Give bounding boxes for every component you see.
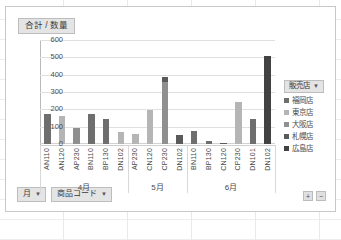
bar-column[interactable] — [132, 134, 139, 144]
category-axis-label: DN102 — [117, 148, 124, 171]
bar-column[interactable] — [147, 110, 154, 144]
gridline — [40, 92, 275, 93]
value-field-label: 合計 / 数量 — [25, 20, 68, 30]
bar-segment[interactable] — [264, 56, 271, 144]
y-axis-tick-label: 300 — [37, 88, 63, 96]
bar-column[interactable] — [162, 77, 169, 144]
category-axis-label: BN110 — [87, 148, 94, 170]
bar-column[interactable] — [88, 114, 95, 144]
bar-segment[interactable] — [250, 119, 257, 144]
legend-item[interactable]: 大阪店 — [284, 121, 336, 129]
bar-column[interactable] — [250, 119, 257, 144]
legend-field-button[interactable]: 販売店▼ — [284, 80, 324, 93]
bar-segment[interactable] — [147, 110, 154, 144]
bar-segment[interactable] — [132, 134, 139, 144]
value-field-button[interactable]: 合計 / 数量 — [18, 18, 75, 34]
category-axis-label: AP230 — [131, 148, 138, 170]
bar-column[interactable] — [103, 119, 110, 144]
zoom-out-button[interactable]: − — [316, 191, 326, 201]
chevron-down-icon: ▼ — [313, 83, 319, 89]
category-axis-label: AN120 — [58, 148, 65, 170]
category-axis-label: AP230 — [73, 148, 80, 170]
bar-column[interactable] — [118, 132, 125, 144]
legend-item[interactable]: 福岡店 — [284, 97, 336, 105]
category-axis-label: DN101 — [249, 148, 256, 171]
pivot-chart-frame[interactable]: 合計 / 数量 販売店▼ 福岡店東京店大阪店札幌店広島店 月▼商品コード▼ +−… — [5, 6, 336, 212]
zoom-in-button[interactable]: + — [303, 191, 313, 201]
y-axis-tick-label: 600 — [37, 36, 63, 44]
group-separator — [128, 145, 129, 193]
bar-segment[interactable] — [162, 82, 169, 144]
legend-item[interactable]: 東京店 — [284, 109, 336, 117]
bar-segment[interactable] — [73, 128, 80, 144]
category-axis-label: BP130 — [102, 148, 109, 170]
legend-swatch-icon — [284, 122, 289, 127]
category-axis-label: CP230 — [161, 148, 168, 170]
bar-column[interactable] — [220, 143, 227, 144]
category-axis-line — [40, 145, 275, 146]
legend-swatch-icon — [284, 146, 289, 151]
category-axis-label: CP230 — [234, 148, 241, 170]
category-axis-label: DN102 — [176, 148, 183, 171]
gridline — [40, 40, 275, 41]
y-axis-tick-label: 100 — [37, 123, 63, 131]
legend-item-label: 大阪店 — [292, 121, 313, 129]
group-axis-label: 4月 — [40, 184, 128, 192]
legend-item[interactable]: 広島店 — [284, 145, 336, 153]
bar-column[interactable] — [206, 141, 213, 144]
legend-item[interactable]: 札幌店 — [284, 133, 336, 141]
legend-swatch-icon — [284, 98, 289, 103]
category-axis-label: DN102 — [264, 148, 271, 171]
group-axis-label: 6月 — [187, 184, 275, 192]
category-axis-label: CN120 — [220, 148, 227, 171]
bar-column[interactable] — [191, 131, 198, 144]
bar-column[interactable] — [73, 128, 80, 144]
legend-swatch-icon — [284, 110, 289, 115]
bar-segment[interactable] — [206, 141, 213, 144]
group-separator — [40, 145, 41, 193]
legend: 販売店▼ 福岡店東京店大阪店札幌店広島店 — [284, 74, 336, 157]
category-axis-label: BP130 — [205, 148, 212, 170]
y-axis-tick-label: 200 — [37, 106, 63, 114]
legend-item-label: 東京店 — [292, 109, 313, 117]
y-axis-tick-label: 500 — [37, 54, 63, 62]
legend-item-label: 札幌店 — [292, 133, 313, 141]
bar-segment[interactable] — [235, 102, 242, 144]
plot-area — [40, 40, 275, 144]
group-separator — [275, 145, 276, 193]
group-axis-label: 5月 — [128, 184, 187, 192]
category-axis-label: CN120 — [146, 148, 153, 171]
pivot-field-label: 月 — [23, 190, 31, 198]
legend-item-label: 福岡店 — [292, 97, 313, 105]
category-axis-label: AN110 — [43, 148, 50, 170]
legend-field-label: 販売店 — [289, 81, 310, 90]
bar-segment[interactable] — [176, 135, 183, 144]
bar-segment[interactable] — [191, 131, 198, 144]
bar-column[interactable] — [264, 56, 271, 144]
bar-segment[interactable] — [220, 143, 227, 144]
gridline — [40, 57, 275, 58]
category-axis-label: BN110 — [190, 148, 197, 170]
bar-column[interactable] — [235, 102, 242, 144]
bar-segment[interactable] — [118, 132, 125, 144]
bar-segment[interactable] — [103, 119, 110, 144]
group-separator — [187, 145, 188, 193]
zoom-controls: +− — [303, 191, 326, 201]
y-axis-tick-label: 400 — [37, 71, 63, 79]
gridline — [40, 75, 275, 76]
legend-item-label: 広島店 — [292, 145, 313, 153]
bar-column[interactable] — [176, 135, 183, 144]
bar-segment[interactable] — [88, 114, 95, 144]
legend-swatch-icon — [284, 134, 289, 139]
